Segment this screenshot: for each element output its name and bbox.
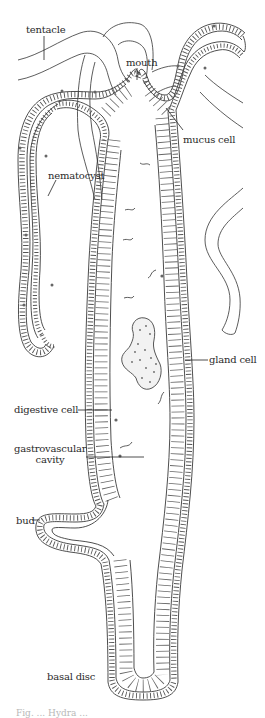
label-mucus-cell: mucus cell [183,134,235,145]
label-gastrovascular-cavity: gastrovascular cavity [14,443,86,465]
figure-caption: Fig. ... Hydra ... [16,708,88,718]
label-gland-cell: gland cell [209,354,257,365]
label-nematocyst: nematocyst [48,170,104,181]
label-mouth: mouth [126,57,157,68]
label-bud: bud [16,515,35,526]
label-digestive-cell: digestive cell [14,404,78,415]
label-basal-disc: basal disc [47,671,95,682]
flagella [120,163,164,448]
left-cellular-tentacle [18,78,128,357]
right-free-tentacle [205,188,243,334]
label-tentacle: tentacle [26,24,65,35]
right-cellular-tentacle [143,23,245,112]
body-column [36,69,194,700]
food-mass [122,318,161,390]
nematocyst-marks [19,25,216,458]
